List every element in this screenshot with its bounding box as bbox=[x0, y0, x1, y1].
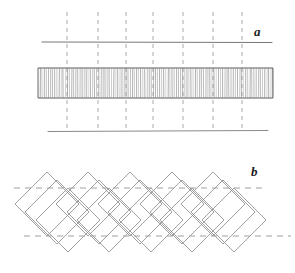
figure-drawing bbox=[0, 0, 295, 273]
upper-reference-line bbox=[42, 42, 272, 43]
panel-a-label: a bbox=[254, 25, 261, 38]
panel-b-label: b bbox=[251, 165, 258, 178]
figure-background bbox=[0, 0, 295, 273]
figure-container: a b bbox=[0, 0, 295, 273]
